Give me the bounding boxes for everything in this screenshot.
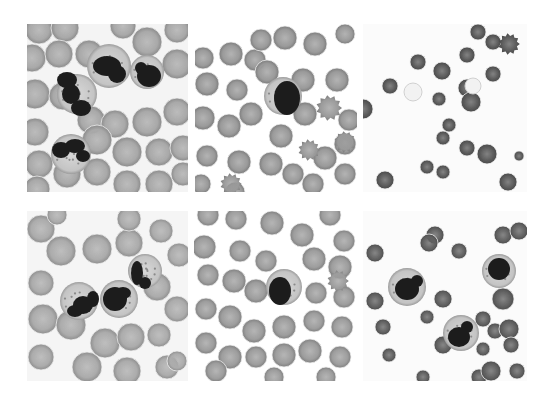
nucleus bbox=[269, 277, 291, 305]
white-blood-cell bbox=[51, 134, 91, 174]
white-blood-cell bbox=[388, 268, 426, 306]
red-blood-cell bbox=[195, 298, 217, 320]
red-blood-cell bbox=[420, 234, 438, 252]
white-blood-cell bbox=[443, 315, 479, 351]
red-blood-cell bbox=[163, 98, 188, 126]
red-blood-cell bbox=[436, 165, 450, 179]
red-blood-cell bbox=[227, 150, 251, 174]
red-blood-cell bbox=[366, 292, 384, 310]
red-blood-cell bbox=[305, 282, 327, 304]
red-blood-cell bbox=[492, 288, 514, 310]
red-blood-cell bbox=[451, 243, 467, 259]
red-blood-cell bbox=[219, 42, 243, 66]
red-blood-cell bbox=[420, 160, 434, 174]
ghost-cell bbox=[404, 83, 422, 101]
red-blood-cell bbox=[229, 240, 251, 262]
red-blood-cell bbox=[132, 27, 162, 57]
red-blood-cell bbox=[272, 315, 296, 339]
red-blood-cell bbox=[46, 236, 76, 266]
red-blood-cell bbox=[298, 339, 322, 363]
red-blood-cell bbox=[132, 107, 162, 137]
red-blood-cell bbox=[242, 319, 266, 343]
red-blood-cell bbox=[410, 54, 426, 70]
red-blood-cell bbox=[72, 352, 102, 381]
red-blood-cell bbox=[217, 114, 241, 138]
red-blood-cell bbox=[149, 219, 173, 243]
red-blood-cell bbox=[442, 118, 456, 132]
red-blood-cell bbox=[434, 290, 452, 308]
micrograph-panel-bottom-left bbox=[27, 211, 188, 381]
red-blood-cell bbox=[272, 343, 296, 367]
red-blood-cell bbox=[338, 109, 357, 131]
red-blood-cell bbox=[28, 270, 54, 296]
red-blood-cell bbox=[335, 24, 355, 44]
red-blood-cell bbox=[269, 124, 293, 148]
nucleus bbox=[274, 81, 300, 115]
red-blood-cell bbox=[197, 264, 219, 286]
red-blood-cell bbox=[331, 316, 353, 338]
red-blood-cell bbox=[162, 49, 188, 79]
red-blood-cell bbox=[145, 138, 173, 166]
red-blood-cell bbox=[194, 235, 216, 259]
nucleus bbox=[76, 150, 90, 162]
red-blood-cell bbox=[255, 250, 277, 272]
red-blood-cell bbox=[90, 328, 120, 358]
red-blood-cell bbox=[28, 304, 58, 334]
nucleus bbox=[67, 305, 83, 317]
red-blood-cell bbox=[459, 47, 475, 63]
red-blood-cell bbox=[205, 360, 227, 381]
red-blood-cell bbox=[375, 319, 391, 335]
red-blood-cell bbox=[27, 150, 53, 178]
micrograph-panel-bottom-middle bbox=[194, 211, 357, 381]
red-blood-cell bbox=[302, 247, 326, 271]
nucleus bbox=[488, 258, 510, 280]
micrograph-panel-top-middle bbox=[195, 24, 357, 192]
red-blood-cell bbox=[470, 24, 486, 40]
red-blood-cell bbox=[290, 223, 314, 247]
nucleus bbox=[108, 65, 126, 83]
red-blood-cell bbox=[475, 311, 491, 327]
red-blood-cell bbox=[510, 222, 527, 240]
red-blood-cell bbox=[117, 323, 145, 351]
red-blood-cell bbox=[167, 243, 188, 267]
red-blood-cell bbox=[196, 145, 218, 167]
red-blood-cell bbox=[476, 342, 490, 356]
red-blood-cell bbox=[382, 78, 398, 94]
red-blood-cell bbox=[333, 230, 355, 252]
red-blood-cell bbox=[485, 34, 501, 50]
white-blood-cell bbox=[87, 44, 131, 88]
nucleus bbox=[135, 62, 147, 74]
red-blood-cell bbox=[302, 173, 324, 192]
red-blood-cell bbox=[485, 66, 501, 82]
red-blood-cell bbox=[82, 234, 112, 264]
red-blood-cell bbox=[366, 244, 384, 262]
red-blood-cell bbox=[273, 26, 297, 50]
red-blood-cell bbox=[477, 144, 497, 164]
red-blood-cell bbox=[260, 211, 284, 235]
micrograph-panel-bottom-right bbox=[363, 211, 527, 381]
red-blood-cell bbox=[509, 363, 525, 379]
red-blood-cell bbox=[503, 337, 519, 353]
red-blood-cell bbox=[250, 29, 272, 51]
red-blood-cell bbox=[259, 152, 283, 176]
red-blood-cell bbox=[218, 305, 242, 329]
red-blood-cell bbox=[461, 92, 481, 112]
nucleus bbox=[411, 275, 423, 287]
red-blood-cell bbox=[459, 140, 475, 156]
red-blood-cell bbox=[117, 211, 141, 231]
red-blood-cell bbox=[499, 173, 517, 191]
red-blood-cell bbox=[325, 68, 349, 92]
white-blood-cell bbox=[130, 55, 164, 89]
red-blood-cell bbox=[195, 72, 219, 96]
nucleus bbox=[139, 277, 151, 289]
red-blood-cell bbox=[147, 323, 171, 347]
red-blood-cell bbox=[226, 79, 248, 101]
red-blood-cell bbox=[245, 346, 267, 368]
ghost-cell bbox=[465, 78, 481, 94]
red-blood-cell bbox=[303, 32, 327, 56]
red-blood-cell bbox=[303, 310, 325, 332]
red-blood-cell bbox=[376, 171, 394, 189]
red-blood-cell bbox=[334, 163, 356, 185]
red-blood-cell bbox=[112, 137, 142, 167]
red-blood-cell bbox=[436, 131, 450, 145]
